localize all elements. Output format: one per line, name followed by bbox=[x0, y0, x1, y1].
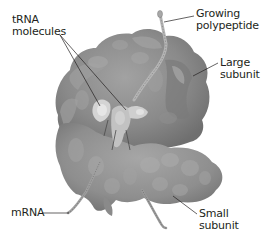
trna-label: tRNA molecules bbox=[12, 14, 66, 38]
polypeptide-label: Growing polypeptide bbox=[196, 8, 259, 32]
mrna-label-line1: mRNA bbox=[11, 207, 44, 219]
trna-label-line2: molecules bbox=[12, 26, 66, 38]
small-subunit-label-line2: subunit bbox=[199, 220, 239, 232]
polypeptide-leader-line bbox=[164, 16, 194, 22]
large-subunit-label-line2: subunit bbox=[220, 69, 260, 81]
small-subunit-label: Small subunit bbox=[199, 208, 239, 232]
polypeptide-label-line2: polypeptide bbox=[196, 20, 259, 32]
ribosome-diagram: tRNA molecules Growing polypeptide Large… bbox=[0, 0, 266, 236]
mrna-label: mRNA bbox=[11, 207, 44, 219]
large-subunit-label: Large subunit bbox=[220, 57, 260, 81]
